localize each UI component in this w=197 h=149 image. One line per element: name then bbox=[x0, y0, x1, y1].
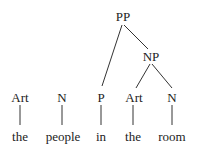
edge-pp-p bbox=[102, 25, 122, 86]
word-room: room bbox=[158, 130, 185, 143]
node-n-1: N bbox=[57, 91, 66, 104]
edge-pp-np bbox=[124, 25, 148, 49]
word-in: in bbox=[96, 130, 106, 143]
word-people: people bbox=[46, 130, 81, 143]
node-art-1: Art bbox=[11, 91, 28, 104]
node-np: NP bbox=[143, 50, 160, 63]
node-p: P bbox=[97, 91, 104, 104]
word-the-1: the bbox=[12, 130, 28, 143]
node-pp: PP bbox=[116, 10, 130, 23]
edge-np-art bbox=[136, 64, 150, 88]
edge-np-n bbox=[152, 64, 172, 88]
node-n-2: N bbox=[167, 91, 176, 104]
syntax-tree: PP NP Art N P Art N the people in the ro… bbox=[0, 0, 197, 149]
tree-edges bbox=[0, 0, 197, 149]
node-art-2: Art bbox=[125, 91, 142, 104]
word-the-2: the bbox=[125, 130, 141, 143]
